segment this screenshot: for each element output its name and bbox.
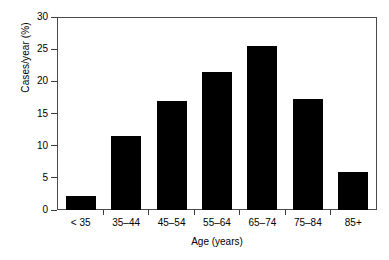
y-tick-label: 15 [26, 109, 48, 119]
bar-chart-figure: Cases/year (%) 051015202530 < 3535–4445–… [0, 0, 389, 260]
x-tick-label: 85+ [331, 217, 376, 229]
x-tick-label: 65–74 [240, 217, 285, 229]
x-tick-mark [239, 210, 240, 215]
x-tick-label: < 35 [58, 217, 103, 229]
x-tick-label: 75–84 [285, 217, 330, 229]
x-tick-label: 45–54 [149, 217, 194, 229]
bar [66, 196, 96, 210]
y-tick-label-wrap: 30 [22, 12, 48, 22]
x-tick-mark [330, 210, 331, 215]
y-tick-label-wrap: 20 [22, 76, 48, 86]
y-tick-label: 25 [26, 44, 48, 54]
y-tick-label: 5 [26, 173, 48, 183]
bar [338, 172, 368, 210]
y-tick-label-wrap: 5 [22, 173, 48, 183]
bar [293, 99, 323, 210]
bar [202, 72, 232, 210]
x-tick-mark [103, 210, 104, 215]
y-tick-label-wrap: 10 [22, 141, 48, 151]
x-tick-mark [148, 210, 149, 215]
x-tick-mark [285, 210, 286, 215]
bar [247, 46, 277, 210]
x-tick-label: 35–44 [103, 217, 148, 229]
y-tick-label: 30 [26, 12, 48, 22]
y-tick-label: 0 [26, 205, 48, 215]
bars-container [58, 18, 376, 210]
y-tick-label-wrap: 15 [22, 109, 48, 119]
x-axis-title: Age (years) [57, 236, 377, 247]
bar [111, 136, 141, 210]
bar [157, 101, 187, 210]
y-tick-label-wrap: 0 [22, 205, 48, 215]
x-tick-mark [194, 210, 195, 215]
y-tick-label-wrap: 25 [22, 44, 48, 54]
y-tick-label: 20 [26, 76, 48, 86]
y-tick-label: 10 [26, 141, 48, 151]
x-tick-label: 55–64 [194, 217, 239, 229]
